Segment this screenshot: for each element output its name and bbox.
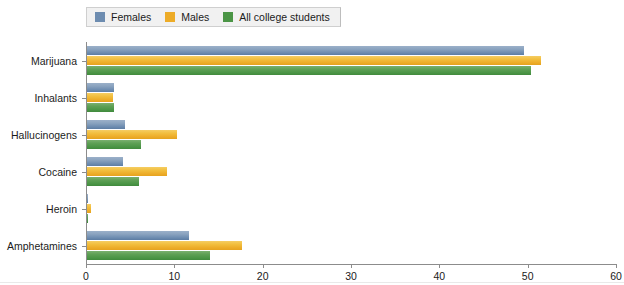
x-axis-tick <box>528 264 529 268</box>
bar <box>87 214 88 223</box>
legend-label: All college students <box>239 12 329 22</box>
bar-group: Heroin <box>86 194 616 223</box>
bar <box>87 241 242 250</box>
bar-group: Hallucinogens <box>86 120 616 149</box>
page-edge-artifact <box>0 282 624 283</box>
category-tick <box>82 172 86 173</box>
category-label: Heroin <box>46 203 77 215</box>
x-axis-tick <box>351 264 352 268</box>
bar <box>87 120 125 129</box>
x-axis-tick-label: 20 <box>257 270 269 282</box>
bar <box>87 103 114 112</box>
bar <box>87 83 114 92</box>
bar-group: Cocaine <box>86 157 616 186</box>
x-axis-tick <box>439 264 440 268</box>
legend-label: Females <box>111 12 151 22</box>
bar <box>87 194 88 203</box>
legend-swatch-icon <box>95 12 105 22</box>
x-axis-tick-label: 10 <box>168 270 180 282</box>
x-axis-tick <box>174 264 175 268</box>
category-label: Amphetamines <box>7 240 77 252</box>
bar <box>87 56 541 65</box>
plot-area: MarijuanaInhalantsHallucinogensCocaineHe… <box>86 42 616 264</box>
x-axis-tick-label: 50 <box>522 270 534 282</box>
bar <box>87 130 177 139</box>
category-tick <box>82 135 86 136</box>
x-axis-tick-label: 30 <box>345 270 357 282</box>
legend-swatch-icon <box>223 12 233 22</box>
bar <box>87 231 189 240</box>
legend-item-all-college-students: All college students <box>223 12 329 22</box>
x-axis-tick <box>263 264 264 268</box>
x-axis-tick-label: 60 <box>610 270 622 282</box>
category-label: Marijuana <box>31 55 77 67</box>
legend-item-males: Males <box>165 12 209 22</box>
category-tick <box>82 209 86 210</box>
bar <box>87 140 141 149</box>
bar <box>87 93 113 102</box>
bar <box>87 66 531 75</box>
bar-group: Marijuana <box>86 46 616 75</box>
legend-swatch-icon <box>165 12 175 22</box>
category-tick <box>82 246 86 247</box>
bar-chart: Females Males All college students Marij… <box>0 0 624 285</box>
legend-label: Males <box>181 12 209 22</box>
bar <box>87 157 123 166</box>
bar <box>87 177 139 186</box>
category-label: Cocaine <box>38 166 77 178</box>
x-axis-tick-label: 0 <box>83 270 89 282</box>
category-tick <box>82 98 86 99</box>
category-tick <box>82 61 86 62</box>
bar-group: Inhalants <box>86 83 616 112</box>
bar <box>87 46 524 55</box>
x-axis-tick <box>86 264 87 268</box>
category-label: Inhalants <box>34 92 77 104</box>
bar-group: Amphetamines <box>86 231 616 260</box>
category-label: Hallucinogens <box>11 129 77 141</box>
bar <box>87 167 167 176</box>
chart-legend: Females Males All college students <box>86 7 341 27</box>
x-axis-tick-label: 40 <box>433 270 445 282</box>
bar <box>87 251 210 260</box>
x-axis-tick <box>616 264 617 268</box>
bar <box>87 204 91 213</box>
legend-item-females: Females <box>95 12 151 22</box>
